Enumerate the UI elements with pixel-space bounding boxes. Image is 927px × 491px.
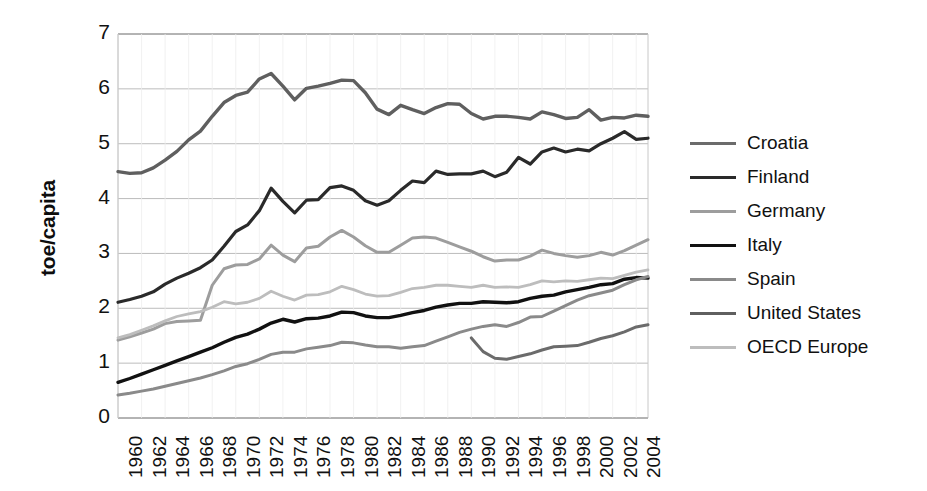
x-tick-1990: 1990 — [478, 436, 500, 478]
x-tick-1970: 1970 — [243, 436, 265, 478]
x-tick-1978: 1978 — [337, 436, 359, 478]
legend-label: Spain — [747, 268, 796, 290]
x-tick-1968: 1968 — [219, 436, 241, 478]
legend-swatch-icon — [690, 142, 736, 145]
x-tick-1982: 1982 — [384, 436, 406, 478]
legend-label: Croatia — [747, 132, 808, 154]
legend-label: United States — [747, 302, 861, 324]
x-tick-1984: 1984 — [408, 436, 430, 478]
x-tick-1962: 1962 — [149, 436, 171, 478]
chart-legend: CroatiaFinlandGermanyItalySpainUnited St… — [690, 126, 920, 364]
x-tick-1966: 1966 — [196, 436, 218, 478]
x-tick-2000: 2000 — [596, 436, 618, 478]
legend-label: Finland — [747, 166, 809, 188]
legend-item-finland[interactable]: Finland — [690, 160, 920, 194]
chart-container: toe/capita 01234567 19601962196419661968… — [0, 0, 927, 491]
x-tick-1996: 1996 — [549, 436, 571, 478]
legend-swatch-icon — [690, 210, 736, 213]
legend-item-italy[interactable]: Italy — [690, 228, 920, 262]
x-tick-1986: 1986 — [431, 436, 453, 478]
x-tick-2004: 2004 — [643, 436, 665, 478]
legend-swatch-icon — [690, 346, 736, 349]
x-tick-1972: 1972 — [266, 436, 288, 478]
x-tick-2002: 2002 — [620, 436, 642, 478]
x-tick-1998: 1998 — [573, 436, 595, 478]
legend-item-united-states[interactable]: United States — [690, 296, 920, 330]
x-tick-1980: 1980 — [361, 436, 383, 478]
legend-item-oecd-europe[interactable]: OECD Europe — [690, 330, 920, 364]
x-tick-1976: 1976 — [313, 436, 335, 478]
legend-item-spain[interactable]: Spain — [690, 262, 920, 296]
legend-label: OECD Europe — [747, 336, 868, 358]
x-tick-1964: 1964 — [172, 436, 194, 478]
legend-swatch-icon — [690, 244, 736, 247]
x-tick-1974: 1974 — [290, 436, 312, 478]
legend-label: Germany — [747, 200, 825, 222]
x-tick-1988: 1988 — [455, 436, 477, 478]
x-tick-1994: 1994 — [525, 436, 547, 478]
legend-swatch-icon — [690, 176, 736, 179]
legend-swatch-icon — [690, 278, 736, 281]
legend-label: Italy — [747, 234, 782, 256]
x-tick-1992: 1992 — [502, 436, 524, 478]
x-tick-1960: 1960 — [125, 436, 147, 478]
legend-item-germany[interactable]: Germany — [690, 194, 920, 228]
legend-item-croatia[interactable]: Croatia — [690, 126, 920, 160]
legend-swatch-icon — [690, 312, 736, 315]
